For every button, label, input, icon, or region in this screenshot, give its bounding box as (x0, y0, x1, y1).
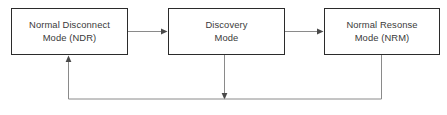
state-node-normal-disconnect-mode[interactable]: Normal Disconnect Mode (NDR) (11, 8, 128, 55)
state-node-discovery-mode[interactable]: Discovery Mode (168, 8, 285, 55)
state-node-label: Normal Disconnect Mode (NDR) (25, 19, 114, 43)
state-node-normal-response-mode[interactable]: Normal Resonse Mode (NRM) (324, 8, 440, 55)
state-node-label: Normal Resonse Mode (NRM) (342, 19, 421, 43)
edge-discovery-to-nrm-arrowhead (317, 29, 324, 35)
edge-ndr-to-discovery-arrowhead (161, 29, 168, 35)
state-node-label: Discovery Mode (201, 19, 251, 43)
state-transition-diagram: Normal Disconnect Mode (NDR) Discovery M… (0, 0, 447, 115)
edge-nrm-feedback-arrowhead (66, 56, 72, 63)
